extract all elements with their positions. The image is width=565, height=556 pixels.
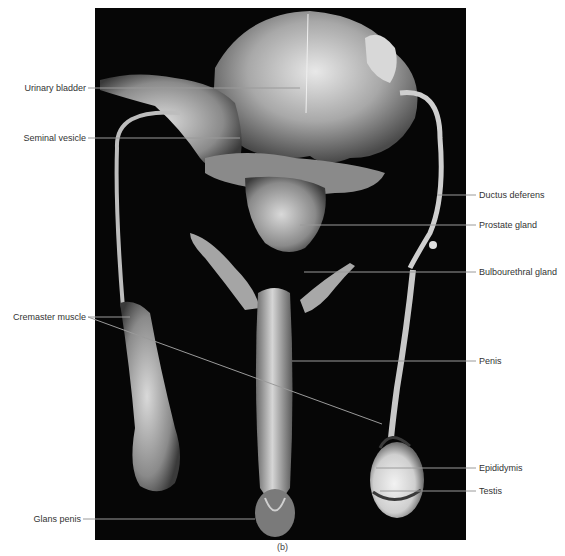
label-prostate-gland: Prostate gland	[479, 220, 537, 230]
label-seminal-vesicle: Seminal vesicle	[23, 133, 86, 143]
specimen-photograph	[95, 8, 466, 540]
label-ductus-deferens: Ductus deferens	[479, 190, 545, 200]
label-urinary-bladder: Urinary bladder	[24, 83, 86, 93]
label-penis: Penis	[479, 356, 502, 366]
label-epididymis: Epididymis	[479, 463, 523, 473]
label-testis: Testis	[479, 486, 502, 496]
specimen-illustration	[95, 8, 466, 540]
label-glans-penis: Glans penis	[33, 514, 81, 524]
label-cremaster-muscle: Cremaster muscle	[13, 312, 86, 322]
label-bulbourethral-gland: Bulbourethral gland	[479, 267, 557, 277]
figure-caption: (b)	[0, 542, 565, 552]
